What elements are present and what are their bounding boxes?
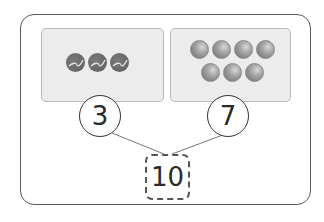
whole-total-box: 10	[145, 154, 190, 200]
right-part-value: 7	[220, 101, 237, 131]
left-part-circle: 3	[79, 95, 121, 137]
right-part-circle: 7	[207, 95, 249, 137]
left-part-value: 3	[92, 101, 109, 131]
whole-value: 10	[151, 162, 184, 192]
